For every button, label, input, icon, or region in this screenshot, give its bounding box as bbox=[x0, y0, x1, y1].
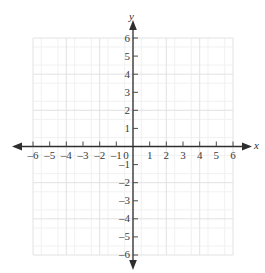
x-tick-label-5: 5 bbox=[210, 150, 222, 161]
x-tick-label-1: 1 bbox=[144, 150, 156, 161]
y-tick-label-2: 2 bbox=[114, 105, 130, 116]
arrow-right-icon bbox=[242, 143, 252, 151]
x-tick-label--6: –6 bbox=[25, 150, 41, 161]
x-tick-label--5: –5 bbox=[42, 150, 58, 161]
arrow-down-icon bbox=[129, 260, 137, 270]
y-tick-label--1: –1 bbox=[110, 159, 130, 170]
arrow-left-icon bbox=[12, 143, 22, 151]
x-tick-label-3: 3 bbox=[177, 150, 189, 161]
x-tick-label-2: 2 bbox=[160, 150, 172, 161]
y-tick-label-3: 3 bbox=[114, 87, 130, 98]
x-axis-label: x bbox=[254, 140, 259, 151]
y-tick-label-6: 6 bbox=[114, 33, 130, 44]
y-tick-label--3: –3 bbox=[110, 195, 130, 206]
x-tick-label-6: 6 bbox=[227, 150, 239, 161]
x-tick-label--4: –4 bbox=[58, 150, 74, 161]
y-tick-label--5: –5 bbox=[110, 231, 130, 242]
y-axis bbox=[129, 20, 137, 270]
y-axis-label: y bbox=[129, 11, 134, 22]
y-tick-label-5: 5 bbox=[114, 51, 130, 62]
y-tick-label--6: –6 bbox=[110, 249, 130, 260]
x-tick-label--2: –2 bbox=[92, 150, 108, 161]
coordinate-plane-figure: –6 –5 –4 –3 –2 –1 0 1 2 3 4 5 6 6 5 4 3 … bbox=[0, 0, 265, 273]
y-tick-label-1: 1 bbox=[114, 123, 130, 134]
x-tick-label-4: 4 bbox=[194, 150, 206, 161]
coordinate-grid-svg bbox=[0, 0, 265, 273]
y-tick-label--4: –4 bbox=[110, 213, 130, 224]
y-tick-label-4: 4 bbox=[114, 69, 130, 80]
y-tick-label--2: –2 bbox=[110, 177, 130, 188]
x-tick-label--3: –3 bbox=[75, 150, 91, 161]
